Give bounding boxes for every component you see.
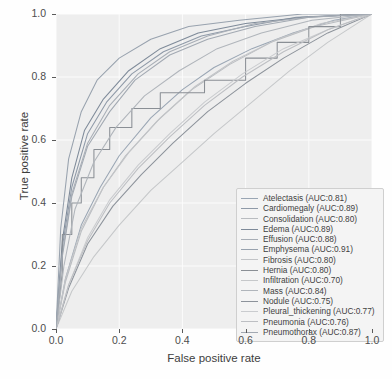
y-tick-label: 0.4	[0, 196, 46, 208]
y-tick-mark	[52, 77, 56, 78]
legend-swatch	[241, 321, 258, 322]
legend-item-edema[interactable]: Edema (AUC:0.89)	[241, 224, 378, 234]
x-tick-mark	[246, 329, 247, 333]
legend-item-pneumonia[interactable]: Pneumonia (AUC:0.76)	[241, 317, 378, 327]
y-tick-mark	[52, 140, 56, 141]
legend-label: Infiltration (AUC:0.70)	[263, 275, 343, 285]
chart-legend[interactable]: Atelectasis (AUC:0.81)Cardiomegaly (AUC:…	[236, 188, 384, 342]
legend-item-mass[interactable]: Mass (AUC:0.84)	[241, 286, 378, 296]
legend-swatch	[241, 249, 258, 250]
legend-label: Atelectasis (AUC:0.81)	[263, 193, 347, 203]
legend-item-nodule[interactable]: Nodule (AUC:0.75)	[241, 296, 378, 306]
legend-label: Pneumonia (AUC:0.76)	[263, 317, 349, 327]
y-tick-mark	[52, 14, 56, 15]
legend-swatch	[241, 208, 258, 209]
x-tick-label: 1.0	[352, 334, 392, 346]
y-tick-label: 0.8	[0, 70, 46, 82]
legend-label: Emphysema (AUC:0.91)	[263, 244, 353, 254]
y-tick-label: 1.0	[0, 7, 46, 19]
legend-item-atelectasis[interactable]: Atelectasis (AUC:0.81)	[241, 193, 378, 203]
legend-label: Nodule (AUC:0.75)	[263, 296, 333, 306]
y-tick-label: 0.6	[0, 133, 46, 145]
legend-label: Fibrosis (AUC:0.80)	[263, 255, 336, 265]
legend-item-consolidation[interactable]: Consolidation (AUC:0.80)	[241, 214, 378, 224]
legend-swatch	[241, 301, 258, 302]
legend-swatch	[241, 270, 258, 271]
legend-swatch	[241, 290, 258, 291]
legend-label: Edema (AUC:0.89)	[263, 224, 333, 234]
x-tick-mark	[372, 329, 373, 333]
legend-item-fibrosis[interactable]: Fibrosis (AUC:0.80)	[241, 255, 378, 265]
legend-swatch	[241, 311, 258, 312]
legend-swatch	[241, 218, 258, 219]
legend-label: Effusion (AUC:0.88)	[263, 234, 337, 244]
x-tick-label: 0.0	[36, 334, 76, 346]
y-tick-mark	[52, 266, 56, 267]
legend-item-effusion[interactable]: Effusion (AUC:0.88)	[241, 234, 378, 244]
legend-item-cardiomegaly[interactable]: Cardiomegaly (AUC:0.89)	[241, 203, 378, 213]
roc-curve-figure: True positive rate False positive rate A…	[0, 0, 392, 379]
x-tick-label: 0.2	[99, 334, 139, 346]
x-tick-label: 0.8	[289, 334, 329, 346]
legend-label: Mass (AUC:0.84)	[263, 286, 327, 296]
x-tick-mark	[182, 329, 183, 333]
y-tick-label: 0.0	[0, 322, 46, 334]
legend-item-hernia[interactable]: Hernia (AUC:0.80)	[241, 265, 378, 275]
x-tick-mark	[56, 329, 57, 333]
legend-swatch	[241, 280, 258, 281]
legend-swatch	[241, 332, 258, 333]
legend-item-pleural_thickening[interactable]: Pleural_thickening (AUC:0.77)	[241, 306, 378, 316]
legend-label: Hernia (AUC:0.80)	[263, 265, 331, 275]
legend-swatch	[241, 239, 258, 240]
x-tick-mark	[119, 329, 120, 333]
legend-swatch	[241, 229, 258, 230]
x-axis-label: False positive rate	[56, 352, 372, 364]
legend-item-infiltration[interactable]: Infiltration (AUC:0.70)	[241, 275, 378, 285]
legend-swatch	[241, 259, 258, 260]
legend-label: Pleural_thickening (AUC:0.77)	[263, 306, 375, 316]
legend-swatch	[241, 198, 258, 199]
legend-label: Cardiomegaly (AUC:0.89)	[263, 203, 358, 213]
legend-label: Consolidation (AUC:0.80)	[263, 214, 357, 224]
legend-item-emphysema[interactable]: Emphysema (AUC:0.91)	[241, 244, 378, 254]
x-tick-label: 0.6	[226, 334, 266, 346]
y-tick-label: 0.2	[0, 259, 46, 271]
y-tick-mark	[52, 203, 56, 204]
x-tick-label: 0.4	[162, 334, 202, 346]
x-tick-mark	[309, 329, 310, 333]
